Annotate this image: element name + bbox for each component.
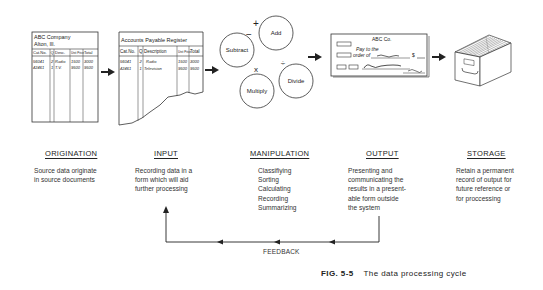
stage-title-output: OUTPUT <box>366 149 399 158</box>
stage-desc-output: Presenting and communicating the results… <box>348 166 406 212</box>
source-document-icon: ABC Company Alton, Ill. Cat.No. Q Desc. … <box>32 32 98 122</box>
svg-text:Unit Price: Unit Price <box>71 51 84 55</box>
register-document-icon: Accounts Payable Register Cat.No. Q Desc… <box>119 32 203 125</box>
arrow-left-icon <box>329 240 335 245</box>
svg-text:Radio: Radio <box>146 59 157 64</box>
arrow-right-icon <box>432 53 446 61</box>
stage-desc-input: Recording data in a form which will aid … <box>135 166 192 194</box>
stage-title-storage: STORAGE <box>467 149 506 158</box>
feedback-label: FEEDBACK <box>263 248 300 255</box>
svg-text:T.V.: T.V. <box>55 65 62 70</box>
svg-text:1500: 1500 <box>178 59 188 64</box>
svg-text:3000: 3000 <box>190 59 200 64</box>
svg-text:1500: 1500 <box>71 59 81 64</box>
operation-circles-icon: Subtract Add Multiply Divide − + x ÷ <box>220 16 313 108</box>
svg-text:Alton, Ill.: Alton, Ill. <box>34 41 56 47</box>
svg-text:Cat.No.: Cat.No. <box>120 49 135 54</box>
svg-text:Desc.: Desc. <box>55 50 65 55</box>
arrow-right-icon <box>308 53 322 61</box>
svg-text:$: $ <box>412 52 415 58</box>
svg-text:Cat.No.: Cat.No. <box>33 50 47 55</box>
diagram-graphics: ABC Company Alton, Ill. Cat.No. Q Desc. … <box>0 0 543 290</box>
svg-text:Television: Television <box>144 66 162 71</box>
svg-text:56041: 56041 <box>33 59 44 64</box>
file-drawer-icon <box>455 35 511 86</box>
arrow-left-icon <box>274 240 280 245</box>
stage-desc-manipulation: Classifiying Sorting Calculating Recordi… <box>258 166 296 212</box>
svg-text:Multiply: Multiply <box>247 88 267 94</box>
svg-text:Radio: Radio <box>55 59 66 64</box>
svg-text:Total: Total <box>190 49 200 54</box>
stage-desc-origination: Source data originate in source document… <box>34 166 97 184</box>
arrow-right-icon <box>205 66 219 74</box>
svg-text:1: 1 <box>140 66 142 71</box>
svg-text:order of: order of <box>353 52 371 58</box>
figure-caption: FIG. 5-5The data processing cycle <box>321 269 466 278</box>
svg-text:÷: ÷ <box>281 59 286 68</box>
svg-text:Subtract: Subtract <box>226 47 249 53</box>
svg-text:ABC Company: ABC Company <box>34 34 71 40</box>
svg-text:9500: 9500 <box>84 65 94 70</box>
arrow-right-icon <box>101 68 115 76</box>
stage-title-input: INPUT <box>154 149 178 158</box>
svg-text:Description: Description <box>144 49 167 54</box>
svg-text:x: x <box>254 65 258 74</box>
stage-desc-storage: Retain a permanent record of output for … <box>456 166 514 203</box>
stage-title-origination: ORIGINATION <box>45 149 97 158</box>
svg-text:Divide: Divide <box>288 78 305 84</box>
svg-text:Accounts Payable Register: Accounts Payable Register <box>121 37 187 43</box>
svg-text:+: + <box>253 18 259 29</box>
svg-text:42461: 42461 <box>120 66 131 71</box>
svg-text:42461: 42461 <box>33 65 44 70</box>
svg-text:9500: 9500 <box>71 65 81 70</box>
arrow-up-icon <box>163 206 169 213</box>
check-icon: ABC Co. Pay to the order of $ <box>331 34 429 77</box>
svg-text:9500: 9500 <box>190 66 200 71</box>
svg-text:56041: 56041 <box>120 59 131 64</box>
svg-text:−: − <box>246 29 252 40</box>
stage-title-manipulation: MANIPULATION <box>250 149 309 158</box>
svg-text:Q: Q <box>51 50 54 55</box>
svg-text:9500: 9500 <box>178 66 188 71</box>
arrow-left-icon <box>217 240 223 245</box>
figure-number: FIG. 5-5 <box>321 269 354 278</box>
svg-text:3000: 3000 <box>84 59 94 64</box>
svg-text:Q: Q <box>139 49 143 54</box>
figure-title: The data processing cycle <box>364 269 467 278</box>
svg-text:Add: Add <box>271 30 282 36</box>
svg-text:1: 1 <box>51 65 53 70</box>
svg-text:ABC Co.: ABC Co. <box>372 36 391 42</box>
svg-text:Total: Total <box>84 50 93 55</box>
